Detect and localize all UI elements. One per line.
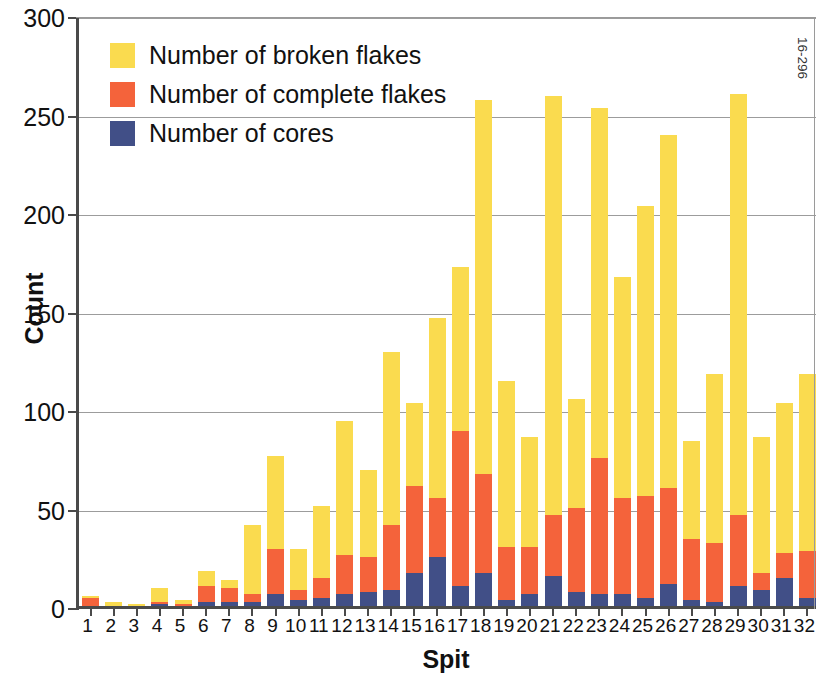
x-axis-tick-label: 27: [678, 615, 699, 637]
bar-segment-broken-flakes: [313, 506, 330, 579]
bar-segment-complete-flakes: [452, 431, 469, 587]
x-axis-tick-label: 13: [354, 615, 375, 637]
y-axis-tick: [68, 313, 79, 315]
bar[interactable]: [336, 421, 353, 606]
plot-top-border: [76, 17, 816, 18]
bar[interactable]: [521, 437, 538, 606]
x-axis-tick-label: 10: [285, 615, 306, 637]
gridline: [79, 314, 816, 315]
y-axis-tick-label: 250: [23, 102, 65, 131]
gridline: [79, 18, 816, 19]
bar-segment-cores: [753, 590, 770, 606]
bar[interactable]: [475, 100, 492, 606]
bar-segment-cores: [267, 594, 284, 606]
bar[interactable]: [244, 525, 261, 606]
y-axis-tick: [68, 411, 79, 413]
bar-segment-broken-flakes: [221, 580, 238, 588]
y-axis-tick: [68, 608, 79, 610]
bar[interactable]: [313, 506, 330, 606]
bar-segment-complete-flakes: [383, 525, 400, 590]
bar-segment-complete-flakes: [683, 539, 700, 600]
legend-item[interactable]: Number of broken flakes: [110, 38, 446, 72]
bar-segment-broken-flakes: [452, 267, 469, 431]
bar-segment-complete-flakes: [221, 588, 238, 602]
x-axis-tick-label: 7: [221, 615, 232, 637]
bar-segment-cores: [360, 592, 377, 606]
x-axis-tick-label: 5: [175, 615, 186, 637]
bar[interactable]: [614, 277, 631, 606]
bar-segment-complete-flakes: [475, 474, 492, 573]
x-axis-tick-label: 21: [539, 615, 560, 637]
bar[interactable]: [591, 108, 608, 606]
x-axis-tick-label: 22: [563, 615, 584, 637]
legend-item-label: Number of cores: [149, 119, 334, 148]
gridline: [79, 215, 816, 216]
bar[interactable]: [82, 596, 99, 606]
bar-segment-complete-flakes: [336, 555, 353, 594]
bar-segment-complete-flakes: [198, 586, 215, 602]
bar-segment-broken-flakes: [614, 277, 631, 498]
bar-segment-broken-flakes: [753, 437, 770, 573]
bar-segment-broken-flakes: [198, 571, 215, 587]
bar-segment-complete-flakes: [290, 590, 307, 600]
bar[interactable]: [568, 399, 585, 606]
bar-segment-cores: [336, 594, 353, 606]
bar[interactable]: [221, 580, 238, 606]
bar[interactable]: [290, 549, 307, 606]
bar-segment-complete-flakes: [545, 515, 562, 576]
legend-item[interactable]: Number of cores: [110, 116, 446, 150]
bar[interactable]: [406, 403, 423, 606]
bar[interactable]: [753, 437, 770, 606]
x-axis-tick-label: 18: [470, 615, 491, 637]
x-axis-tick-label: 16: [424, 615, 445, 637]
bar-segment-broken-flakes: [568, 399, 585, 507]
bar-segment-broken-flakes: [429, 318, 446, 497]
x-axis-tick-label: 3: [129, 615, 140, 637]
bar[interactable]: [776, 403, 793, 606]
bar-segment-cores: [406, 573, 423, 606]
bar-segment-broken-flakes: [498, 381, 515, 546]
bar[interactable]: [498, 381, 515, 606]
bar[interactable]: [452, 267, 469, 606]
x-axis-tick-label: 23: [586, 615, 607, 637]
bar-segment-complete-flakes: [776, 553, 793, 579]
bar[interactable]: [151, 588, 168, 606]
legend-swatch-icon: [110, 43, 135, 68]
x-axis-tick-label: 14: [378, 615, 399, 637]
x-axis-tick-label: 24: [609, 615, 630, 637]
bar-segment-broken-flakes: [151, 588, 168, 602]
x-axis-tick-label: 17: [447, 615, 468, 637]
bar-segment-broken-flakes: [244, 525, 261, 594]
legend-item[interactable]: Number of complete flakes: [110, 77, 446, 111]
bar[interactable]: [637, 206, 654, 606]
bar[interactable]: [660, 135, 677, 606]
bar-segment-broken-flakes: [383, 352, 400, 525]
bar[interactable]: [683, 441, 700, 606]
bar-segment-cores: [452, 586, 469, 606]
y-axis-tick-label: 50: [37, 496, 65, 525]
y-axis-tick-label: 200: [23, 201, 65, 230]
bar-segment-broken-flakes: [360, 470, 377, 557]
bar-segment-cores: [545, 576, 562, 606]
bar-segment-broken-flakes: [591, 108, 608, 459]
bar[interactable]: [198, 571, 215, 606]
bar[interactable]: [429, 318, 446, 606]
bar-segment-broken-flakes: [776, 403, 793, 553]
bar[interactable]: [267, 456, 284, 606]
bar-segment-broken-flakes: [336, 421, 353, 555]
bar-segment-broken-flakes: [637, 206, 654, 496]
bar[interactable]: [360, 470, 377, 606]
bar-segment-complete-flakes: [753, 573, 770, 591]
legend-swatch-icon: [110, 82, 135, 107]
bar[interactable]: [383, 352, 400, 606]
x-axis-tick-label: 32: [794, 615, 815, 637]
bar-segment-cores: [313, 598, 330, 606]
bar-segment-complete-flakes: [706, 543, 723, 602]
bar-segment-cores: [660, 584, 677, 606]
y-axis-tick: [68, 510, 79, 512]
bar-segment-complete-flakes: [614, 498, 631, 595]
bar[interactable]: [545, 96, 562, 606]
bar[interactable]: [706, 374, 723, 606]
bar[interactable]: [730, 94, 747, 606]
bar-segment-complete-flakes: [568, 508, 585, 593]
